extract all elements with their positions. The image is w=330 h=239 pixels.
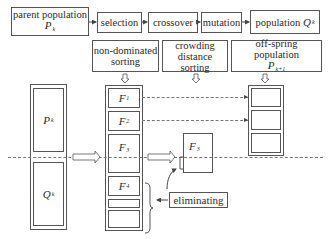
connector-arrows bbox=[0, 0, 330, 239]
